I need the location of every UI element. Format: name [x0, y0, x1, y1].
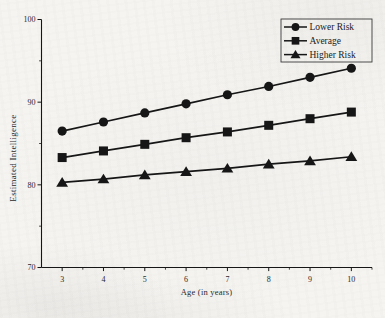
series-average-square-marker [140, 140, 149, 149]
series-lower-risk-circle-marker [223, 90, 232, 99]
series-average-square-marker [223, 127, 232, 136]
y-tick-label: 70 [28, 263, 36, 272]
y-axis-title: Estimated Intelligence [8, 88, 18, 228]
series-lower-risk-circle-marker [140, 108, 149, 117]
series-lower-risk-circle-marker [99, 117, 108, 126]
x-tick-label: 4 [101, 275, 105, 284]
x-tick-label: 8 [267, 275, 271, 284]
legend-lower-risk-label: Lower Risk [310, 22, 355, 32]
series-average-square-marker [264, 121, 273, 130]
x-tick-label: 10 [347, 275, 355, 284]
line-chart: 100908070345678910Lower RiskAverageHighe… [0, 0, 385, 318]
series-lower-risk-circle-marker [305, 73, 314, 82]
series-average-square-marker [99, 146, 108, 155]
series-average-square-marker [347, 108, 356, 117]
x-tick-label: 5 [143, 275, 147, 284]
series-average-square-marker [182, 133, 191, 142]
x-tick-label: 7 [225, 275, 229, 284]
x-tick-label: 6 [184, 275, 188, 284]
series-average-square-marker [306, 114, 315, 123]
legend-higher-risk-label: Higher Risk [310, 50, 356, 60]
y-tick-label: 80 [28, 181, 36, 190]
legend-average-square-marker [292, 37, 300, 45]
series-lower-risk-circle-marker [58, 127, 67, 136]
legend-average-label: Average [310, 36, 341, 46]
series-lower-risk-circle-marker [264, 82, 273, 91]
series-lower-risk-circle-marker [181, 99, 190, 108]
series-lower-risk-circle-marker [347, 64, 356, 73]
x-tick-label: 3 [60, 275, 64, 284]
y-tick-label: 100 [24, 15, 36, 24]
scanned-figure-page: 100908070345678910Lower RiskAverageHighe… [0, 0, 385, 318]
x-axis-title: Age (in years) [41, 287, 372, 297]
y-tick-label: 90 [28, 98, 36, 107]
series-average-square-marker [58, 153, 67, 162]
series-higher-risk-triangle-marker [345, 151, 357, 161]
legend-lower-risk-circle-marker [292, 23, 300, 31]
x-tick-label: 9 [308, 275, 312, 284]
